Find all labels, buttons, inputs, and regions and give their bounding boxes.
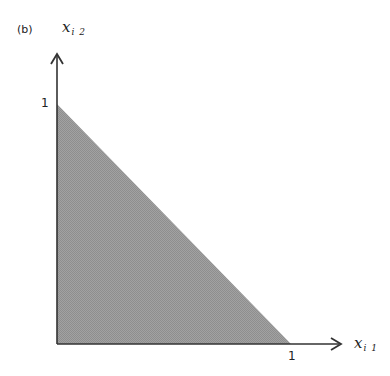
diagram-canvas (0, 0, 390, 376)
y-axis-label-subscript: i 2 (71, 27, 85, 37)
panel-label: (b) (17, 23, 33, 36)
x-axis-label-main: x (354, 334, 362, 352)
x-axis-label-subscript: i 1 (363, 343, 377, 353)
feasible-region-triangle (57, 104, 291, 344)
x-axis-label: xi 1 (354, 334, 378, 353)
y-axis-label-main: x (62, 18, 70, 36)
y-axis-tick-label: 1 (41, 96, 49, 110)
y-axis-label: xi 2 (62, 18, 86, 37)
x-axis-tick-label: 1 (288, 349, 296, 363)
